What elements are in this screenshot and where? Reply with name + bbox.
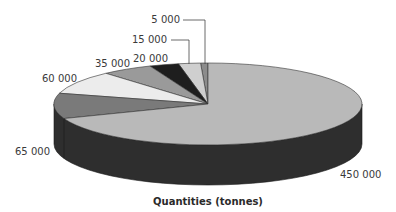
slice-label: 450 000	[340, 169, 381, 180]
leader-line	[171, 40, 189, 64]
slice-label: 15 000	[132, 34, 167, 45]
slice-label: 20 000	[133, 53, 168, 64]
chart-title: Quantities (tonnes)	[153, 196, 263, 207]
leader-lines	[171, 20, 205, 64]
slice-label: 60 000	[42, 73, 77, 84]
slice-label: 5 000	[151, 14, 180, 25]
pie-chart: 5 00015 00020 00035 00060 00065 000450 0…	[0, 0, 396, 212]
slice-label: 35 000	[95, 58, 130, 69]
pie-slices	[54, 63, 362, 145]
slice-label: 65 000	[15, 146, 50, 157]
leader-line	[183, 20, 205, 64]
